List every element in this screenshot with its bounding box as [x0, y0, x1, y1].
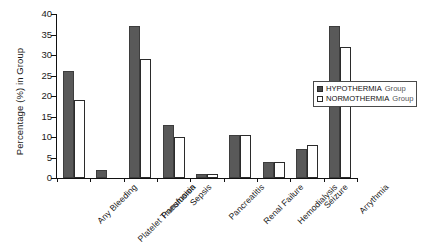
legend-item-normothermia: NORMOTHERMIA Group	[317, 94, 413, 104]
y-tick-label: 30	[22, 50, 52, 59]
bar	[163, 125, 174, 178]
y-tick-label: 40	[22, 9, 52, 18]
bar	[296, 149, 307, 178]
bar	[74, 100, 85, 178]
bar	[140, 59, 151, 178]
bar	[274, 162, 285, 178]
y-tick-label: 10	[22, 132, 52, 141]
legend-group-word-hypothermia: Group	[385, 84, 406, 94]
x-category-label: Arrythmia	[357, 182, 391, 216]
x-axis-category-labels: Any BleedingPlatelet TransfusionPneumoni…	[57, 182, 357, 242]
bar	[129, 26, 140, 178]
y-tick-label: 0	[22, 173, 52, 182]
bar	[96, 170, 107, 178]
x-category-label: Pancreatitis	[227, 182, 267, 222]
chart-legend: HYPOTHERMIA Group NORMOTHERMIA Group	[313, 81, 417, 107]
legend-label-hypothermia: HYPOTHERMIA	[326, 84, 382, 94]
bar	[240, 135, 251, 178]
bar	[63, 71, 74, 178]
normothermia-swatch-icon	[317, 96, 323, 102]
bar	[207, 174, 218, 178]
y-tick-label: 35	[22, 30, 52, 39]
x-axis-line	[56, 178, 357, 179]
legend-group-word-normothermia: Group	[392, 94, 413, 104]
y-tick-label: 25	[22, 71, 52, 80]
legend-label-normothermia: NORMOTHERMIA	[326, 94, 389, 104]
y-tick-label: 15	[22, 112, 52, 121]
bar	[174, 137, 185, 178]
hypothermia-swatch-icon	[317, 86, 323, 92]
legend-item-hypothermia: HYPOTHERMIA Group	[317, 84, 413, 94]
bar	[263, 162, 274, 178]
plot-area: 0510152025303540	[57, 14, 357, 178]
x-category-label: Any Bleeding	[95, 182, 139, 226]
y-tick-label: 20	[22, 91, 52, 100]
bar	[340, 47, 351, 178]
y-tick-label: 5	[22, 153, 52, 162]
bar	[307, 145, 318, 178]
x-tick-mark	[357, 178, 358, 182]
bar	[196, 174, 207, 178]
bar-chart: Percentage (%) in Group 0510152025303540…	[0, 0, 430, 247]
bar	[229, 135, 240, 178]
